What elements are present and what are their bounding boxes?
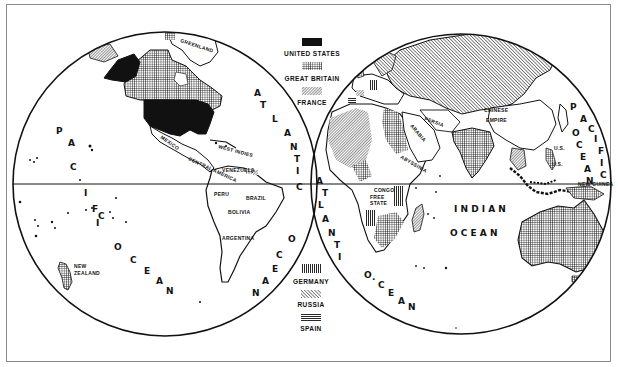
label-new-zealand-1: NEW	[74, 263, 87, 269]
svg-text:I: I	[84, 188, 87, 198]
label-new-zealand-2: ZEALAND	[74, 270, 100, 276]
svg-text:A: A	[584, 164, 591, 174]
label-pacific-west: P A C I F I C	[56, 126, 105, 228]
legend-swatch-fr	[302, 87, 322, 95]
svg-text:T: T	[334, 240, 341, 250]
eastern-hemisphere	[326, 34, 604, 329]
legend-swatch-ru	[301, 290, 321, 298]
svg-text:A: A	[316, 176, 323, 186]
svg-text:A: A	[68, 138, 75, 148]
svg-text:C: C	[276, 250, 283, 260]
svg-text:A: A	[254, 88, 261, 98]
legend-swatch-de	[301, 264, 321, 273]
svg-text:C: C	[70, 162, 77, 172]
svg-text:E: E	[580, 152, 586, 162]
svg-text:C: C	[576, 140, 583, 150]
label-us-pacific-1: U.S.	[554, 145, 565, 151]
svg-text:F: F	[598, 146, 604, 156]
svg-text:O: O	[364, 270, 372, 280]
svg-text:A: A	[262, 276, 269, 286]
label-bolivia: BOLIVIA	[228, 209, 250, 215]
svg-text:C: C	[588, 124, 595, 134]
label-congo-1: CONGO	[374, 187, 394, 193]
svg-text:C: C	[98, 211, 105, 221]
svg-text:I: I	[296, 166, 299, 176]
label-us-pacific-2: U.S.	[552, 161, 563, 167]
svg-text:C: C	[600, 170, 607, 180]
svg-text:O: O	[288, 234, 296, 244]
legend-swatch-es	[301, 314, 321, 322]
legend-swatch-gb	[302, 62, 322, 70]
svg-text:I: I	[594, 134, 597, 144]
world-hemispheres-map: UNITED STATES GREAT BRITAIN FRANCE GERMA…	[0, 0, 618, 367]
legend-label-de: GERMANY	[293, 278, 329, 285]
svg-text:I: I	[600, 158, 603, 168]
svg-text:E: E	[272, 264, 278, 274]
label-ocean-east-atlantic: O · C E A N	[364, 270, 416, 312]
svg-text:A: A	[322, 214, 329, 224]
svg-text:L: L	[272, 114, 278, 124]
svg-text:N: N	[290, 142, 298, 152]
label-indian-ocean: O C E A N	[450, 228, 497, 238]
svg-text:C: C	[378, 280, 385, 290]
label-ocean-west-atlantic: O C E A N	[252, 234, 296, 298]
svg-text:A: A	[156, 276, 163, 286]
label-atlantic-east: A T L A N T I	[316, 176, 341, 262]
label-venezuela: VENEZUELA	[222, 167, 255, 173]
legend-label-us: UNITED STATES	[284, 50, 340, 57]
australia-landmass	[518, 200, 604, 272]
svg-text:A: A	[398, 296, 405, 306]
svg-text:C: C	[130, 255, 137, 265]
svg-text:O: O	[572, 128, 580, 138]
label-ocean-west-pacific: O C E A N	[114, 242, 174, 296]
legend-label-es: SPAIN	[300, 325, 321, 332]
label-peru: PERU	[214, 191, 229, 197]
svg-text:N: N	[408, 302, 416, 312]
label-congo-3: STATE	[370, 200, 388, 206]
india-landmass	[452, 128, 494, 178]
label-chinese-2: EMPIRE	[486, 117, 507, 123]
svg-text:T: T	[294, 154, 301, 164]
svg-text:·: ·	[372, 274, 375, 284]
legend-label-ru: RUSSIA	[298, 301, 325, 308]
svg-text:P: P	[570, 102, 577, 112]
svg-text:N: N	[166, 286, 174, 296]
legend-swatch-us	[302, 38, 322, 46]
svg-text:L: L	[318, 200, 324, 210]
label-chinese-1: CHINESE	[484, 107, 509, 113]
label-argentina: ARGENTINA	[222, 235, 255, 241]
svg-text:O: O	[114, 242, 122, 252]
label-indian: I N D I A N	[454, 204, 506, 214]
svg-text:E: E	[144, 266, 150, 276]
svg-text:I: I	[338, 252, 341, 262]
legend-top: UNITED STATES GREAT BRITAIN FRANCE	[284, 38, 340, 106]
label-atlantic-west: A T L A N T I C	[254, 88, 303, 192]
legend-label-fr: FRANCE	[297, 99, 327, 106]
svg-text:T: T	[322, 188, 329, 198]
svg-text:P: P	[56, 126, 63, 136]
label-brazil: BRAZIL	[246, 195, 266, 201]
label-ocean-east-pacific: O C E A N	[572, 128, 594, 186]
svg-text:C: C	[296, 182, 303, 192]
svg-text:N: N	[252, 288, 260, 298]
svg-text:N: N	[328, 228, 336, 238]
label-west-indies: WEST INDIES	[218, 143, 254, 158]
label-new-guinea: NEW GUINEA	[578, 181, 614, 187]
legend-bottom: GERMANY RUSSIA SPAIN	[293, 264, 329, 332]
legend-label-gb: GREAT BRITAIN	[284, 75, 339, 82]
svg-text:T: T	[260, 100, 267, 110]
svg-text:A: A	[284, 128, 291, 138]
new-zealand-landmass	[58, 262, 72, 290]
svg-text:A: A	[580, 114, 587, 124]
svg-text:E: E	[388, 288, 394, 298]
